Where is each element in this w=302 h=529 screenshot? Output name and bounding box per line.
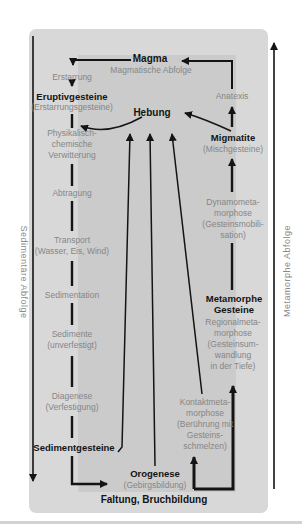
node-regionalmetamorphose: Regionalmeta- morphose (Gesteinsum- wand…	[205, 317, 260, 372]
node-migmatite: Migmatite	[211, 132, 255, 143]
arrow-migmatite-to-hebung	[185, 113, 231, 131]
label-mischgesteine: (Mischgesteine)	[203, 144, 263, 155]
rock-cycle-diagram: Sedimentäre Abfolge Metamorphe Abfolge M…	[0, 0, 302, 529]
node-sedimentation: Sedimentation	[45, 290, 99, 301]
arrow-sedimentgesteine-to-orogenese	[72, 456, 107, 484]
label-magmatische-abfolge: Magmatische Abfolge	[110, 65, 191, 76]
node-hebung: Hebung	[133, 107, 170, 118]
node-dynamometamorphose: Dynamometa- morphose (Gesteinsmobili- sa…	[202, 197, 263, 241]
right-axis-label: Metamorphe Abfolge	[282, 225, 292, 317]
node-transport: Transport (Wasser, Eis, Wind)	[35, 235, 109, 257]
node-sedimente: Sedimente (unverfestigt)	[47, 329, 97, 351]
label-erstarrungsgesteine: (Erstarrungsgesteine)	[31, 102, 113, 113]
arrow-sedimentgesteine-to-hebung	[118, 134, 130, 452]
node-abtragung: Abtragung	[52, 188, 91, 199]
node-erstarrung: Erstarrung	[52, 72, 92, 83]
node-metamorphe-gesteine: Metamorphe Gesteine	[206, 293, 262, 315]
node-verwitterung: Physikalisch- chemische Verwitterung	[47, 128, 97, 161]
node-anatexis: Anatexis	[216, 91, 249, 102]
node-sedimentgesteine: Sedimentgesteine	[33, 442, 114, 453]
label-gebirgsbildung: (Gebirgsbildung)	[124, 480, 187, 491]
node-diagenese: Diagenese (Verfestigung)	[46, 391, 99, 413]
node-faltung-bruchbildung: Faltung, Bruchbildung	[101, 494, 208, 505]
arrow-orogenese-to-hebung	[150, 134, 155, 466]
node-kontaktmetamorphose: Kontaktmeta- morphose (Berührung mit Ges…	[177, 397, 233, 452]
node-orogenese: Orogenese	[130, 468, 180, 479]
arrow-kontaktmetamorphose-to-hebung	[172, 134, 202, 394]
left-axis-label: Sedimentäre Abfolge	[19, 225, 29, 318]
node-eruptivgesteine: Eruptivgesteine	[36, 91, 107, 102]
node-magma: Magma	[133, 53, 167, 64]
